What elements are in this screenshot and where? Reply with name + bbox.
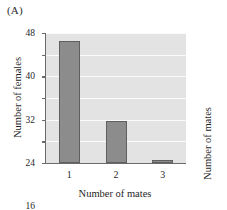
y-tick-mark: 24 xyxy=(42,98,46,99)
y-tick-mark: 40 xyxy=(42,55,46,56)
x-tick-label: 3 xyxy=(160,169,165,180)
y-axis-title: Number of females xyxy=(12,33,23,163)
x-axis-title: Number of mates xyxy=(45,188,185,199)
panel-b-y-axis-title: Number of mates xyxy=(202,89,213,199)
figure-container: (A) Number of females 081624324048 123 N… xyxy=(0,0,227,210)
y-tick-mark: 16 xyxy=(42,120,46,121)
panel-b: (B) Number of mates xyxy=(190,0,227,210)
y-tick-label: 32 xyxy=(26,115,36,125)
y-tick-mark: 0 xyxy=(42,163,46,164)
y-tick-mark: 32 xyxy=(42,76,46,77)
y-tick-label: 48 xyxy=(26,28,36,38)
bar xyxy=(59,41,80,163)
panel-a-label: (A) xyxy=(7,4,23,16)
x-tick-label: 1 xyxy=(67,169,72,180)
bar xyxy=(152,160,173,163)
bar xyxy=(106,121,127,163)
panel-a: (A) Number of females 081624324048 123 N… xyxy=(0,0,190,210)
y-tick-label: 40 xyxy=(26,71,36,81)
plot-area: 081624324048 123 xyxy=(45,33,186,164)
y-tick-mark: 48 xyxy=(42,33,46,34)
gridline xyxy=(46,33,186,34)
y-tick-mark: 8 xyxy=(42,141,46,142)
x-tick-label: 2 xyxy=(114,169,119,180)
y-tick-label: 24 xyxy=(26,158,36,168)
y-tick-label: 16 xyxy=(26,201,36,210)
